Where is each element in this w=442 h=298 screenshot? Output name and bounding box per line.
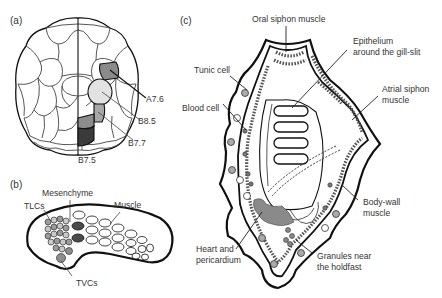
label-bodywall-line1: Body-wall bbox=[363, 197, 400, 207]
label-b75: B7.5 bbox=[78, 155, 96, 165]
label-b85: B8.5 bbox=[138, 116, 156, 126]
label-heart-line1: Heart and bbox=[196, 244, 234, 254]
cell-b85 bbox=[88, 79, 112, 105]
panel-c: (c) bbox=[180, 14, 430, 288]
embryo-diagram bbox=[16, 18, 139, 155]
label-atrial-line2: muscle bbox=[382, 95, 409, 105]
label-tvcs: TVCs bbox=[76, 278, 97, 288]
panel-c-label: (c) bbox=[180, 15, 192, 26]
panel-b: (b) TLCs Mesenchyme Muscle bbox=[10, 179, 172, 288]
panel-b-label: (b) bbox=[10, 179, 22, 190]
label-tlcs: TLCs bbox=[24, 201, 45, 211]
label-heart-line2: pericardium bbox=[196, 255, 241, 265]
panel-a-label: (a) bbox=[10, 15, 22, 26]
label-b77: B7.7 bbox=[128, 138, 146, 148]
label-epithelium-line2: around the gill-slit bbox=[353, 47, 421, 57]
label-epithelium-line1: Epithelium bbox=[353, 36, 393, 46]
panel-a: (a) bbox=[10, 15, 164, 165]
figure-canvas: (a) bbox=[0, 0, 442, 298]
label-mesenchyme: Mesenchyme bbox=[42, 188, 93, 198]
label-bodywall-line2: muscle bbox=[363, 208, 390, 218]
label-a76: A7.6 bbox=[146, 94, 164, 104]
label-oral-siphon-muscle: Oral siphon muscle bbox=[252, 14, 326, 24]
label-blood-cell: Blood cell bbox=[182, 103, 219, 113]
label-tunic-cell: Tunic cell bbox=[194, 65, 230, 75]
label-granules-line1: Granules near bbox=[317, 251, 372, 261]
label-granules-line2: the holdfast bbox=[317, 262, 362, 272]
mesenchyme-cell bbox=[72, 234, 84, 242]
mesenchyme-cell bbox=[72, 222, 84, 230]
tvc-cell bbox=[66, 248, 73, 255]
label-muscle: Muscle bbox=[114, 200, 141, 210]
cell-a76 bbox=[100, 62, 119, 80]
label-atrial-line1: Atrial siphon bbox=[382, 84, 430, 94]
